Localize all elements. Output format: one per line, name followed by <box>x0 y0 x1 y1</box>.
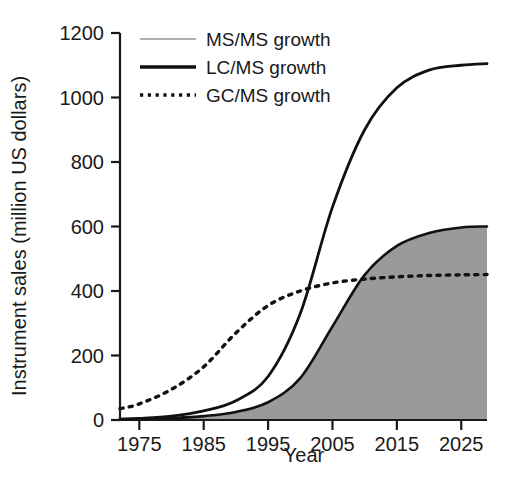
y-tick-label: 600 <box>71 216 104 238</box>
x-axis-title: Year <box>284 444 325 466</box>
y-tick-label: 200 <box>71 345 104 367</box>
y-axis-ticks: 020040060080010001200 <box>60 22 121 431</box>
x-tick-label: 1985 <box>181 433 226 455</box>
y-tick-label: 1200 <box>60 22 105 44</box>
chart-plot-area: 020040060080010001200 197519851995200520… <box>0 0 513 488</box>
legend-label-gcms: GC/MS growth <box>206 85 331 106</box>
series-area-msms <box>120 227 487 421</box>
y-tick-label: 400 <box>71 280 104 302</box>
y-tick-label: 1000 <box>60 87 105 109</box>
y-tick-label: 800 <box>71 151 104 173</box>
legend-label-msms: MS/MS growth <box>206 29 331 50</box>
x-tick-label: 2025 <box>439 433 484 455</box>
y-axis-title: Instrument sales (million US dollars) <box>8 76 30 396</box>
x-tick-label: 1975 <box>117 433 162 455</box>
chart-figure: 020040060080010001200 197519851995200520… <box>0 0 513 488</box>
legend-item-lcms: LC/MS growth <box>140 57 326 78</box>
chart-legend: MS/MS growth LC/MS growth GC/MS growth <box>140 29 331 106</box>
legend-label-lcms: LC/MS growth <box>206 57 326 78</box>
legend-item-msms: MS/MS growth <box>140 29 331 50</box>
x-tick-label: 2015 <box>375 433 420 455</box>
legend-item-gcms: GC/MS growth <box>140 85 331 106</box>
y-tick-label: 0 <box>93 409 104 431</box>
